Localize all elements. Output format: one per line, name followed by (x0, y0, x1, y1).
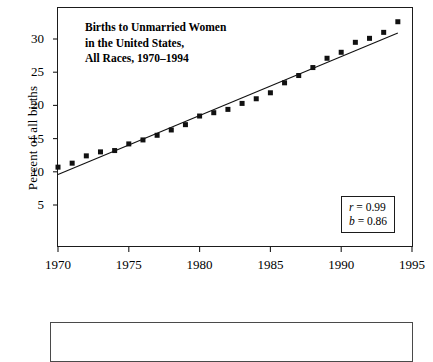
x-axis-tick-label: 1970 (31, 258, 85, 271)
correlation-stat-row: r = 0.99 (349, 200, 387, 214)
correlation-value: = 0.99 (356, 201, 386, 213)
chart-title-line-2: in the United States, (85, 36, 226, 52)
y-axis-tick-label: 25 (10, 65, 44, 78)
chart-title: Births to Unmarried Women in the United … (85, 20, 226, 67)
y-axis-tick-label: 20 (10, 98, 44, 111)
x-axis-tick-label: 1975 (102, 258, 156, 271)
x-axis-tick-label: 1985 (243, 258, 297, 271)
x-axis-tick-label: 1990 (314, 258, 368, 271)
y-axis-tick-label: 5 (10, 198, 44, 211)
y-axis-tick-label: 10 (10, 165, 44, 178)
chart-title-line-3: All Races, 1970–1994 (85, 51, 226, 67)
slope-stat-row: b = 0.86 (349, 214, 387, 228)
x-axis-tick-label: 1980 (173, 258, 227, 271)
x-axis-tick-label: 1995 (385, 258, 433, 271)
slope-value: = 0.86 (358, 215, 388, 227)
slope-symbol: b (349, 215, 355, 227)
y-axis-tick-label: 30 (10, 32, 44, 45)
statistics-annotation-box: r = 0.99 b = 0.86 (341, 196, 395, 233)
y-axis-tick-label: 15 (10, 132, 44, 145)
chart-title-line-1: Births to Unmarried Women (85, 20, 226, 36)
caption-box (50, 322, 413, 362)
correlation-symbol: r (349, 201, 353, 213)
